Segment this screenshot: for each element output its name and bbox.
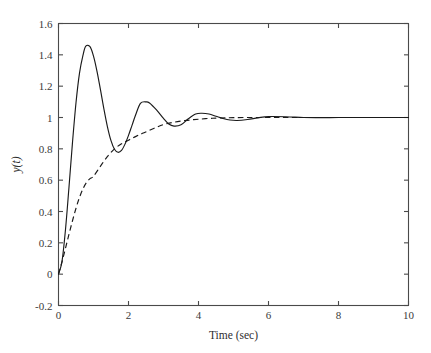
step-response-chart: 0246810-0.200.20.40.60.811.21.41.6Time (… [0,0,431,353]
x-tick-label: 8 [336,309,342,321]
y-tick-label: 1.4 [39,49,53,61]
y-tick-label: 1.2 [39,80,53,92]
y-tick-label: 0.6 [39,174,53,186]
x-tick-label: 10 [403,309,415,321]
y-tick-label: 0.8 [39,143,53,155]
y-tick-label: -0.2 [35,300,52,312]
y-tick-label: 1.6 [39,18,53,30]
y-tick-label: 0.2 [39,237,53,249]
chart-figure-root: 0246810-0.200.20.40.60.811.21.41.6Time (… [0,0,431,353]
y-tick-label: 1 [47,112,53,124]
x-tick-label: 6 [266,309,272,321]
x-tick-label: 0 [56,309,62,321]
figure-background [0,0,431,353]
x-tick-label: 4 [196,309,202,321]
x-tick-label: 2 [126,309,132,321]
y-tick-label: 0 [47,268,53,280]
y-axis-title: y(t) [10,156,23,173]
y-tick-label: 0.4 [39,206,53,218]
x-axis-title: Time (sec) [209,329,258,342]
